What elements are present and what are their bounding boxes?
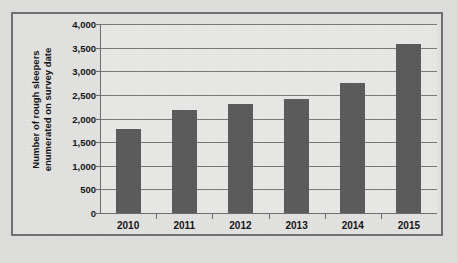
y-tick-mark	[94, 48, 100, 49]
x-tick-mark	[269, 214, 270, 219]
y-tick-mark	[94, 71, 100, 72]
bar-2014[interactable]	[340, 83, 365, 213]
y-tick-mark	[94, 213, 100, 214]
y-tick-mark	[94, 119, 100, 120]
y-tick-label: 500	[52, 184, 96, 195]
y-tick-mark	[94, 189, 100, 190]
bars-layer	[100, 24, 437, 213]
bar-2012[interactable]	[228, 104, 253, 213]
x-tick-mark	[381, 214, 382, 219]
y-tick-label: 2,500	[52, 89, 96, 100]
y-axis-tick-labels: 4,0003,5003,0002,5002,0001,5001,0005000	[52, 18, 96, 218]
y-tick-mark	[94, 142, 100, 143]
x-tick-mark	[325, 214, 326, 219]
y-tick-label: 3,000	[52, 66, 96, 77]
y-tick-mark	[94, 95, 100, 96]
y-tick-label: 0	[52, 208, 96, 219]
y-tick-mark	[94, 24, 100, 25]
y-tick-mark	[94, 166, 100, 167]
x-tick-label-2014: 2014	[342, 220, 364, 231]
bar-2010[interactable]	[116, 129, 141, 213]
x-tick-label-2012: 2012	[229, 220, 251, 231]
x-tick-label-2013: 2013	[285, 220, 307, 231]
x-tick-label-2015: 2015	[398, 220, 420, 231]
y-axis-title-line1: Number of rough sleepers	[31, 47, 43, 171]
y-tick-label: 3,500	[52, 42, 96, 53]
y-tick-label: 1,500	[52, 137, 96, 148]
x-tick-label-2010: 2010	[117, 220, 139, 231]
bar-2011[interactable]	[172, 110, 197, 213]
y-tick-label: 1,000	[52, 160, 96, 171]
bar-2015[interactable]	[396, 44, 421, 213]
y-tick-label: 4,000	[52, 19, 96, 30]
bar-2013[interactable]	[284, 99, 309, 213]
x-tick-label-2011: 2011	[173, 220, 195, 231]
x-tick-mark	[212, 214, 213, 219]
y-tick-label: 2,000	[52, 113, 96, 124]
x-tick-mark	[156, 214, 157, 219]
x-axis-tick-labels: 201020112012201320142015	[100, 220, 437, 236]
